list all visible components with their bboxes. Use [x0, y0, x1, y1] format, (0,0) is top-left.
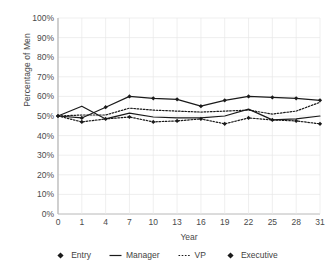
y-axis-tick-labels: 0%10%20%30%40%50%60%70%80%90%100%	[10, 18, 54, 214]
legend-label: VP	[195, 250, 206, 260]
y-tick-label: 10%	[12, 190, 54, 199]
x-axis-tick-labels: 01471013161922252831	[58, 218, 320, 232]
plot-area	[58, 18, 320, 214]
line-chart: Percentage of Men 0%10%20%30%40%50%60%70…	[0, 0, 332, 276]
legend-item-executive[interactable]: Executive	[224, 250, 278, 260]
y-tick-label: 40%	[12, 132, 54, 141]
x-tick-label: 1	[70, 218, 94, 227]
diamond-marker-icon	[54, 251, 67, 260]
y-tick-label: 90%	[12, 34, 54, 43]
legend-label: Manager	[126, 250, 160, 260]
x-tick-label: 31	[308, 218, 332, 227]
solid-line-icon	[109, 251, 122, 260]
x-tick-label: 22	[237, 218, 261, 227]
legend-label: Executive	[241, 250, 278, 260]
y-tick-label: 60%	[12, 92, 54, 101]
legend-item-entry[interactable]: Entry	[54, 250, 91, 260]
y-tick-label: 80%	[12, 53, 54, 62]
y-tick-label: 100%	[12, 14, 54, 23]
x-tick-label: 28	[284, 218, 308, 227]
y-tick-label: 70%	[12, 73, 54, 82]
legend-item-vp[interactable]: VP	[178, 250, 206, 260]
x-tick-label: 13	[165, 218, 189, 227]
x-tick-label: 7	[117, 218, 141, 227]
y-tick-label: 50%	[12, 112, 54, 121]
y-tick-label: 20%	[12, 171, 54, 180]
x-tick-label: 25	[260, 218, 284, 227]
diamond-marker-icon	[224, 251, 237, 260]
chart-legend: EntryManagerVPExecutive	[0, 250, 332, 260]
dotted-line-icon	[178, 251, 191, 260]
data-series-layer	[58, 18, 320, 214]
y-tick-label: 30%	[12, 151, 54, 160]
x-tick-label: 19	[213, 218, 237, 227]
x-tick-label: 0	[46, 218, 70, 227]
x-tick-label: 4	[94, 218, 118, 227]
legend-label: Entry	[71, 250, 91, 260]
x-tick-label: 16	[189, 218, 213, 227]
x-axis-title: Year	[58, 232, 320, 242]
legend-item-manager[interactable]: Manager	[109, 250, 160, 260]
x-tick-label: 10	[141, 218, 165, 227]
